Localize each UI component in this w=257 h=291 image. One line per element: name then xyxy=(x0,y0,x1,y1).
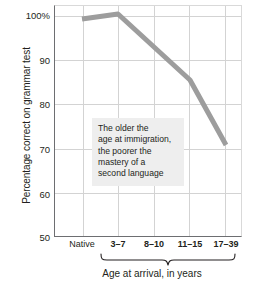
y-tick-label: 70 xyxy=(6,144,50,155)
y-tick-label: 90 xyxy=(6,54,50,65)
annotation-line: the poorer the xyxy=(98,146,178,157)
x-tick-label-native: Native xyxy=(69,239,95,249)
x-axis-brace-icon xyxy=(98,253,238,268)
brace-path xyxy=(101,254,235,265)
y-tick-label: 80 xyxy=(6,99,50,110)
y-tick-label: 50 xyxy=(6,232,50,243)
annotation-line: The older the xyxy=(98,123,178,134)
y-tick-label: 100% xyxy=(6,9,50,20)
annotation-line: mastery of a xyxy=(98,157,178,168)
annotation-line: age at immigration, xyxy=(98,134,178,145)
x-tick-label: 11–15 xyxy=(178,239,203,249)
grammar-test-line-chart: Percentage correct on grammar test 100% … xyxy=(0,0,257,291)
x-tick-label: 3–7 xyxy=(110,239,125,249)
x-tick-label: 17–39 xyxy=(214,239,239,249)
annotation-line: second language xyxy=(98,168,178,179)
x-axis-title: Age at arrival, in years xyxy=(54,268,250,279)
chart-annotation: The older the age at immigration, the po… xyxy=(92,118,184,186)
x-tick-label: 8–10 xyxy=(144,239,164,249)
y-tick-label: 60 xyxy=(6,188,50,199)
y-axis-tick-labels: 100% 90 80 70 60 50 xyxy=(0,5,50,237)
